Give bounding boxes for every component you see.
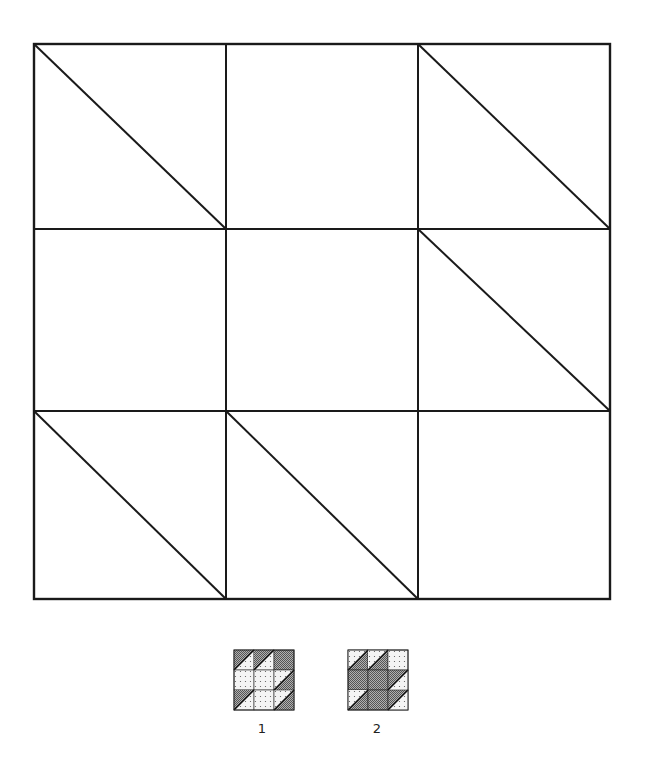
thumbnail-cell (348, 650, 368, 670)
thumbnail-label-2: 2 (367, 721, 387, 736)
thumbnail-cell (274, 690, 294, 710)
thumbnail-cell (274, 670, 294, 690)
thumbnail-cell (234, 670, 254, 690)
thumbnail-cell (368, 650, 388, 670)
cell-diagonal (226, 411, 418, 599)
thumbnail-variation-1 (233, 649, 295, 711)
thumbnail-cell (348, 670, 368, 690)
thumbnail-label-1: 1 (252, 721, 272, 736)
thumbnail-cell (254, 670, 274, 690)
cell-diagonal (418, 229, 610, 411)
thumbnail-cell (234, 650, 254, 670)
cell-diagonal (34, 411, 226, 599)
cell-diagonal (418, 44, 610, 229)
thumbnail-cell (388, 690, 408, 710)
thumbnail-cell (274, 650, 294, 670)
cell-diagonal (34, 44, 226, 229)
thumbnail-cell (254, 650, 274, 670)
thumbnail-variation-2 (347, 649, 409, 711)
thumbnail-cell (234, 690, 254, 710)
thumbnail-cell (388, 650, 408, 670)
thumbnail-cell (368, 690, 388, 710)
thumbnail-cell (368, 670, 388, 690)
thumbnail-cell (388, 670, 408, 690)
thumbnail-cell (348, 690, 368, 710)
quilt-block-grid (0, 0, 646, 640)
thumbnail-cell (254, 690, 274, 710)
